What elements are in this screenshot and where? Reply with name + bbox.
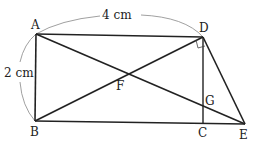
label-c: C (198, 126, 207, 140)
label-b: B (30, 125, 39, 139)
segment-ab (35, 34, 36, 121)
dimension-arc-ad-right (141, 15, 203, 37)
label-f: F (116, 79, 124, 93)
geometry-figure: A D B C E F G 4 cm 2 cm (0, 0, 254, 142)
dimension-arc-ab-bottom (20, 82, 35, 121)
dimension-label-ab: 2 cm (4, 66, 34, 80)
dimension-label-ad: 4 cm (102, 8, 132, 22)
segment-ae (36, 34, 245, 124)
label-a: A (30, 18, 40, 32)
dimension-arc-ab-top (20, 34, 36, 62)
segment-ad (36, 34, 203, 37)
label-d: D (199, 21, 209, 35)
label-g: G (205, 94, 215, 108)
label-e: E (239, 128, 248, 142)
segment-de (203, 37, 245, 124)
dimension-arc-ad (36, 16, 100, 34)
segment-be (35, 121, 245, 124)
